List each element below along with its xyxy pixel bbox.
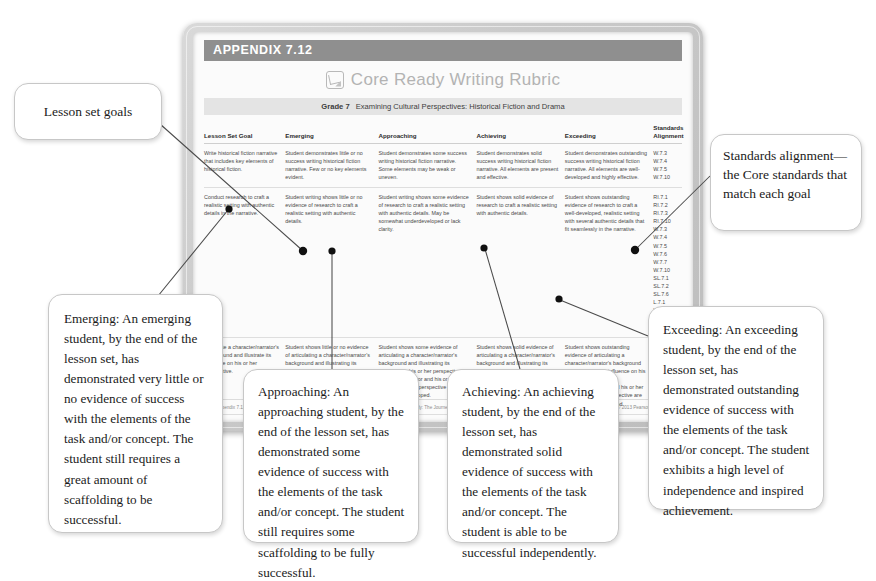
standard-code: SL.7.1 [653, 274, 677, 282]
cell-achieving: Student demonstrates solid success writi… [476, 143, 564, 187]
cell-emerging: Student writing shows little or no evide… [285, 187, 378, 337]
standard-code: W.7.10 [653, 266, 677, 274]
col-header-achieving: Achieving [476, 124, 564, 143]
standard-code: SL.7.2 [653, 282, 677, 290]
checklist-square-icon [326, 71, 344, 89]
callout-approaching-text: Approaching: An approaching student, by … [258, 382, 406, 581]
table-header-row: Lesson Set Goal Emerging Approaching Ach… [204, 124, 682, 143]
callout-standards-alignment-text: Standards alignment—the Core standards t… [723, 146, 849, 203]
table-row: Conduct research to craft a realistic se… [204, 187, 682, 337]
standard-code: W.7.10 [653, 173, 677, 181]
cell-standards: W.7.3W.7.4W.7.5W.7.10 [653, 143, 682, 187]
rubric-title: Core Ready Writing Rubric [351, 70, 560, 90]
rubric-document-page: APPENDIX 7.12 Core Ready Writing Rubric … [193, 32, 693, 422]
standard-code: W.7.4 [653, 233, 677, 241]
callout-achieving-text: Achieving: An achieving student, by the … [462, 382, 606, 563]
standard-code: RI.7.2 [653, 201, 677, 209]
table-row: Write historical fiction narrative that … [204, 143, 682, 187]
col-header-approaching: Approaching [378, 124, 476, 143]
cell-exceeding: Student shows outstanding evidence of re… [565, 187, 653, 337]
standard-code: W.7.5 [653, 242, 677, 250]
standard-code: W.7.3 [653, 149, 677, 157]
callout-lesson-set-goals: Lesson set goals [14, 83, 162, 140]
grade-subject: Examining Cultural Perspectives: Histori… [356, 102, 565, 111]
col-header-lesson-set-goal: Lesson Set Goal [204, 124, 285, 143]
standard-code: W.7.5 [653, 165, 677, 173]
callout-lesson-set-goals-text: Lesson set goals [44, 104, 133, 120]
standard-code: W.7.3 [653, 225, 677, 233]
standard-code: W.7.6 [653, 250, 677, 258]
appendix-header-bar: APPENDIX 7.12 [204, 40, 682, 61]
cell-goal: Write historical fiction narrative that … [204, 143, 285, 187]
callout-standards-alignment: Standards alignment—the Core standards t… [710, 134, 862, 231]
col-header-exceeding: Exceeding [565, 124, 653, 143]
tablet-screen: APPENDIX 7.12 Core Ready Writing Rubric … [193, 32, 693, 422]
cell-achieving: Student shows solid evidence of research… [476, 187, 564, 337]
cell-approaching: Student demonstrates some success writin… [378, 143, 476, 187]
col-header-standards-alignment: Standards Alignment [653, 124, 682, 143]
cell-emerging: Student demonstrates little or no succes… [285, 143, 378, 187]
grade-band: Grade 7 Examining Cultural Perspectives:… [204, 98, 682, 115]
callout-exceeding-text: Exceeding: An exceeding student, by the … [663, 320, 811, 521]
cell-approaching: Student writing shows some evidence of r… [378, 187, 476, 337]
callout-achieving: Achieving: An achieving student, by the … [447, 369, 619, 543]
standard-code: RI.7.3 [653, 209, 677, 217]
callout-emerging-text: Emerging: An emerging student, by the en… [64, 309, 209, 530]
standard-code: RI.7.10 [653, 217, 677, 225]
grade-label: Grade 7 [321, 102, 349, 111]
callout-emerging: Emerging: An emerging student, by the en… [48, 294, 223, 533]
standard-code: SL.7.6 [653, 290, 677, 298]
standard-code: W.7.7 [653, 258, 677, 266]
callout-approaching: Approaching: An approaching student, by … [243, 369, 419, 543]
rubric-title-row: Core Ready Writing Rubric [204, 70, 682, 90]
cell-exceeding: Student demonstrates outstanding success… [565, 143, 653, 187]
standard-code: RI.7.1 [653, 193, 677, 201]
standard-code: W.7.4 [653, 157, 677, 165]
col-header-emerging: Emerging [285, 124, 378, 143]
callout-exceeding: Exceeding: An exceeding student, by the … [648, 306, 824, 510]
